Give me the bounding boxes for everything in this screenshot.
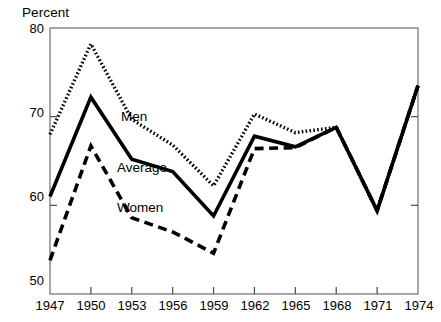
plot-frame: [50, 28, 418, 294]
chart-plot-area: [0, 0, 441, 322]
axis-ticks: [50, 117, 418, 294]
chart-figure: Percent 80 70 60 50 1947 1950 1953 1956 …: [0, 0, 441, 322]
series-line-men: [50, 44, 418, 211]
data-series-group: [50, 44, 418, 260]
